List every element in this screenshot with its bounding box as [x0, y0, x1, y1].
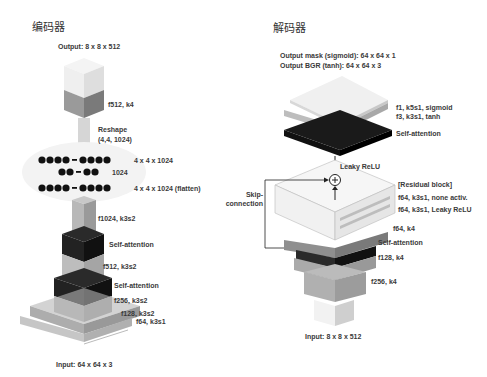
label-self-attention-mid: Self-attention: [378, 238, 423, 247]
label-self-attention-top: Self-attention: [396, 129, 441, 138]
label-f3: f3, k3s1, tanh: [396, 112, 440, 121]
label-res-conv2: f64, k3s1, Leaky ReLU: [398, 205, 472, 214]
label-residual-block: [Residual block]: [398, 180, 452, 189]
label-f64-k4: f64, k4: [393, 224, 415, 233]
label-skip-line2: connection: [225, 199, 263, 208]
label-f1: f1, k5s1, sigmoid: [396, 103, 452, 112]
label-res-conv1: f64, k3s1, none activ.: [398, 193, 468, 202]
decoder-input-label: Input: 8 x 8 x 512: [305, 332, 361, 341]
label-leaky-relu: Leaky ReLU: [340, 162, 380, 171]
decoder-f256-k4-block: [304, 264, 366, 302]
decoder-input-cube: [314, 300, 354, 326]
label-skip-line1: Skip-: [243, 190, 263, 199]
label-f256-k4: f256, k4: [371, 277, 397, 286]
label-f128-k4: f128, k4: [378, 253, 404, 262]
